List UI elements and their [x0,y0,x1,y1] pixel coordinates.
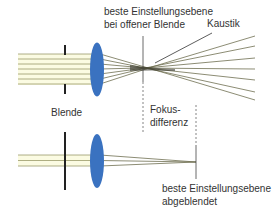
optics-diagram: beste Einstellungsebene bei offener Blen… [0,0,273,219]
label-focus-difference-line2: differenz [150,117,188,128]
lens-top [90,43,104,97]
label-best-focus-open-line1: beste Einstellungsebene [104,6,213,17]
label-aperture: Blende [51,107,83,118]
lens-bottom [90,134,104,188]
refracted-rays-bottom [100,155,196,166]
refracted-rays [100,36,255,100]
label-focus-difference-line1: Fokus- [150,104,181,115]
label-best-focus-open-line2: bei offener Blende [104,19,185,30]
open-aperture-diagram [18,33,255,133]
label-best-focus-stopped-line2: abgeblendet [162,196,217,207]
label-caustic: Kaustik [207,18,241,29]
label-best-focus-stopped-line1: beste Einstellungsebene [162,183,271,194]
caustic-pointer-line [155,33,212,63]
